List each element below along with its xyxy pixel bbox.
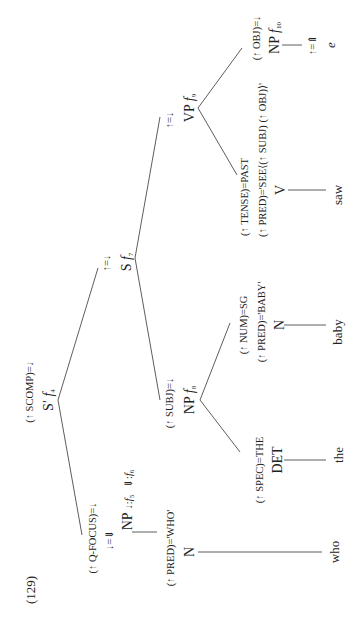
word-gap-e: e [324,42,337,48]
node-vp-label: VP [182,105,197,122]
node-np-subj: NP f8 [183,386,198,414]
np-who-annotation-eq: ↓=⇓ [105,530,116,550]
root-annotation: (↑ SCOMP)=↓ [25,361,36,423]
fvar-down: ↓: [123,501,134,509]
node-det: DET [271,446,285,473]
node-sprime: S′ f4 [42,389,57,411]
v-annotation-tense: (↑ TENSE)=PAST [240,158,251,236]
node-np-who-label: NP [120,513,135,530]
node-np-obj-label: NP [267,37,282,54]
node-sprime-label: S′ [41,400,56,411]
node-np-obj: NP f10 [268,22,283,54]
node-v: V [274,185,288,195]
n-who-annotation: (↑ PRED)='WHO' [166,510,177,587]
tree-edges [0,0,356,628]
vp-annotation: ↑=↓ [165,112,176,128]
det-annotation: (↑ SPEC)=THE [255,437,266,503]
node-s-fvar: 7 [127,253,135,257]
word-who: who [328,541,341,563]
edge-np-det [200,400,240,452]
word-baby: baby [331,319,344,344]
word-the: the [332,447,345,463]
edge-s-vp [135,117,160,258]
node-sprime-fvar: 4 [49,389,57,393]
node-n-baby: N [273,320,287,330]
node-s-label: S [119,264,134,272]
node-np-subj-fvar: 8 [190,386,198,390]
gap-annotation: ↑=⇑ [308,35,319,55]
fvar-5: 5 [128,495,136,499]
n-baby-annotation-pred: (↑ PRED)='BABY' [257,282,268,363]
node-vp: VP f9 [183,94,198,122]
edge-vp-npobj [198,48,242,108]
example-number: (129) [24,576,37,604]
edge-s-np [135,258,160,400]
edge-sprime-np [58,400,82,535]
node-np-obj-fvar: 10 [275,22,283,29]
v-annotation-pred: (↑ PRED)='SEE⟨(↑ SUBJ) (↑ OBJ)⟩' [258,83,269,237]
edge-np-n [200,323,230,400]
node-n-who: N [183,547,197,557]
s-annotation: ↑=↓ [102,255,113,271]
fvar-6: 6 [128,470,136,474]
np-obj-annotation: (↑ OBJ)=↓ [252,16,263,61]
node-np-who: NP ↓:f5 ⇓:f6 [121,470,136,531]
node-s: S f7 [120,253,135,272]
n-baby-annotation-num: (↑ NUM)=SG [239,296,250,355]
np-subj-annotation: (↑ SUBJ)=↓ [165,378,176,429]
fvar-ddown: ⇓: [123,476,134,488]
edge-sprime-s [58,268,98,400]
node-np-subj-label: NP [182,397,197,414]
edge-vp-v [198,108,237,175]
word-saw: saw [331,185,344,205]
np-who-annotation-focus: (↑ Q-FOCUS)=↓ [88,503,99,574]
node-vp-fvar: 9 [190,94,198,98]
